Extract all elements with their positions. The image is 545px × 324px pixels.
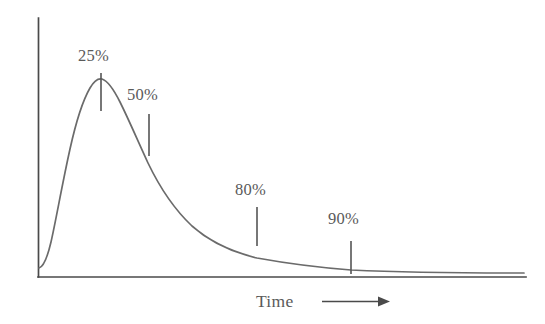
figure-canvas: 25% 50% 80% 90% Time — [0, 0, 545, 324]
marker-label-50: 50% — [127, 87, 158, 104]
arrow-right-icon — [378, 297, 390, 307]
response-curve — [39, 79, 524, 273]
x-axis-title: Time — [256, 293, 294, 311]
marker-label-90: 90% — [328, 211, 359, 228]
marker-label-25: 25% — [78, 48, 109, 65]
marker-label-80: 80% — [235, 182, 266, 199]
